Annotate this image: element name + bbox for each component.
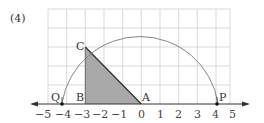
label-p: P — [219, 91, 227, 104]
svg-text:1: 1 — [157, 108, 164, 121]
svg-text:5: 5 — [229, 108, 236, 121]
svg-text:−2: −2 — [92, 108, 108, 121]
svg-text:3: 3 — [194, 108, 201, 121]
tick-labels: −5 −4 −3 −2 −1 0 1 2 3 4 5 — [35, 108, 236, 121]
label-q: Q — [51, 91, 60, 104]
x-axis-left-arrow — [30, 102, 38, 107]
svg-text:4: 4 — [212, 108, 219, 121]
svg-text:0: 0 — [138, 108, 145, 121]
problem-label: (4) — [10, 12, 26, 25]
svg-text:2: 2 — [175, 108, 182, 121]
svg-text:−4: −4 — [55, 108, 71, 121]
grid — [48, 9, 230, 104]
label-b: B — [76, 91, 84, 104]
diagram: (4) C B A Q P −5 −4 −3 −2 −1 0 1 — [0, 0, 264, 123]
x-axis-right-arrow — [242, 102, 250, 107]
svg-text:−3: −3 — [74, 108, 90, 121]
svg-text:−5: −5 — [35, 108, 51, 121]
label-a: A — [141, 91, 151, 104]
label-c: C — [76, 40, 84, 53]
point-q — [60, 102, 64, 106]
svg-text:−1: −1 — [111, 108, 127, 121]
